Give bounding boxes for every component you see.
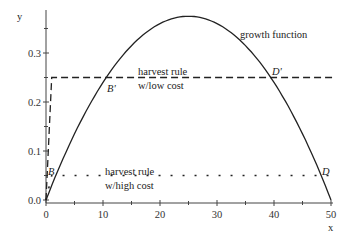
high-cost-label-line2: w/high cost [105, 180, 154, 191]
harvest-rule-low-cost-line [46, 78, 333, 201]
y-axis-label: y [17, 11, 23, 22]
point-d-prime: D' [271, 66, 283, 77]
curves [46, 16, 333, 200]
x-tick-label: 50 [326, 209, 337, 220]
x-tick-label: 20 [155, 209, 166, 220]
point-d: D [321, 166, 330, 177]
growth-function-label: growth function [240, 29, 308, 40]
y-tick-label: 0.1 [28, 146, 41, 157]
high-cost-label-line1: harvest rule [105, 166, 155, 177]
growth-function-curve [46, 16, 331, 200]
low-cost-label-line1: harvest rule [138, 66, 188, 77]
axes: 010203040500.00.10.20.3 [28, 10, 336, 220]
point-b-prime: B' [107, 83, 116, 94]
point-b: B [48, 166, 55, 177]
y-tick-label: 0.0 [28, 195, 41, 206]
harvest-growth-chart: 010203040500.00.10.20.3 y x growth funct… [0, 0, 353, 239]
x-tick-label: 10 [98, 209, 109, 220]
low-cost-label-line2: w/low cost [138, 80, 184, 91]
x-tick-label: 40 [269, 209, 280, 220]
x-tick-label: 30 [212, 209, 223, 220]
y-tick-label: 0.2 [28, 97, 41, 108]
x-axis-label: x [328, 222, 334, 233]
x-tick-label: 0 [43, 209, 48, 220]
y-tick-label: 0.3 [28, 48, 41, 59]
harvest-rule-high-cost-line [46, 176, 331, 201]
